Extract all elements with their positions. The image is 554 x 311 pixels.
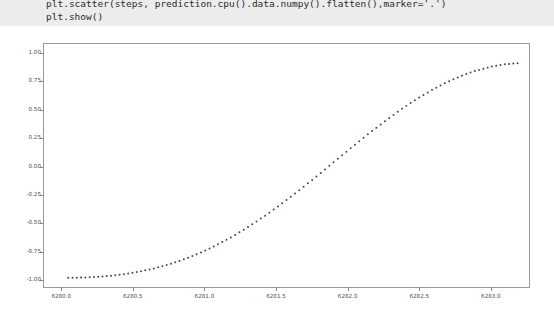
- y-tick-label: 1.00: [29, 48, 41, 57]
- data-point: [474, 70, 476, 72]
- data-point: [461, 75, 463, 77]
- data-point: [127, 273, 129, 275]
- data-point: [97, 276, 99, 278]
- data-point: [114, 274, 116, 276]
- data-point: [315, 175, 317, 177]
- data-point: [144, 269, 146, 271]
- plot-surface: [44, 44, 529, 287]
- data-point: [290, 196, 292, 198]
- data-point: [247, 226, 249, 228]
- data-point: [358, 140, 360, 142]
- data-point: [367, 133, 369, 135]
- data-point: [435, 87, 437, 89]
- data-point: [106, 275, 108, 277]
- data-point: [499, 64, 501, 66]
- data-point: [388, 117, 390, 119]
- x-tick-mark: [61, 287, 62, 291]
- x-tick-mark: [491, 287, 492, 291]
- data-point: [110, 275, 112, 277]
- y-tick-label: -0.25: [27, 190, 41, 199]
- data-point: [72, 277, 74, 279]
- data-point: [405, 105, 407, 107]
- x-tick-label: 6281.5: [266, 292, 286, 301]
- data-point: [286, 199, 288, 201]
- data-point: [495, 65, 497, 67]
- data-point: [238, 231, 240, 233]
- data-point: [414, 99, 416, 101]
- data-point: [418, 97, 420, 99]
- code-cell[interactable]: plt.scatter(steps, prediction.cpu().data…: [0, 0, 554, 26]
- data-point: [354, 144, 356, 146]
- data-point: [341, 154, 343, 156]
- data-point: [213, 246, 215, 248]
- data-point: [136, 271, 138, 273]
- data-point: [320, 172, 322, 174]
- data-point: [131, 272, 133, 274]
- data-point: [324, 168, 326, 170]
- data-point: [221, 241, 223, 243]
- data-point: [256, 221, 258, 223]
- data-point: [512, 62, 514, 64]
- data-point: [380, 123, 382, 125]
- data-point: [251, 223, 253, 225]
- data-point: [149, 268, 151, 270]
- data-point: [397, 111, 399, 113]
- data-point: [363, 137, 365, 139]
- matplotlib-figure-output: 1.000.750.500.250.00-0.25-0.50-0.75-1.00…: [0, 26, 554, 311]
- data-point: [264, 215, 266, 217]
- data-point: [157, 266, 159, 268]
- y-tick-label: -0.75: [27, 247, 41, 256]
- data-point: [303, 186, 305, 188]
- y-tick-label: 0.50: [29, 105, 41, 114]
- data-point: [84, 276, 86, 278]
- plot-axes: 1.000.750.500.250.00-0.25-0.50-0.75-1.00…: [43, 43, 530, 288]
- data-point: [226, 239, 228, 241]
- data-point: [196, 253, 198, 255]
- data-point: [517, 62, 519, 64]
- x-tick-label: 6283.0: [481, 292, 501, 301]
- data-point: [431, 89, 433, 91]
- data-point: [375, 127, 377, 129]
- data-point: [217, 243, 219, 245]
- data-point: [440, 84, 442, 86]
- data-point: [179, 260, 181, 262]
- data-point: [76, 277, 78, 279]
- scatter-series: [44, 44, 529, 287]
- data-point: [268, 212, 270, 214]
- x-tick-label: 6280.0: [51, 292, 71, 301]
- data-point: [200, 251, 202, 253]
- x-tick-mark: [419, 287, 420, 291]
- data-point: [281, 202, 283, 204]
- data-point: [345, 151, 347, 153]
- data-point: [384, 120, 386, 122]
- data-point: [487, 67, 489, 69]
- x-tick-label: 6281.0: [195, 292, 215, 301]
- data-point: [67, 277, 69, 279]
- data-point: [260, 218, 262, 220]
- data-point: [273, 209, 275, 211]
- data-point: [410, 102, 412, 104]
- data-point: [101, 275, 103, 277]
- data-point: [337, 158, 339, 160]
- data-point: [482, 68, 484, 70]
- data-point: [307, 182, 309, 184]
- data-point: [204, 250, 206, 252]
- data-point: [187, 257, 189, 259]
- data-point: [161, 265, 163, 267]
- data-point: [448, 80, 450, 82]
- x-tick-mark: [204, 287, 205, 291]
- data-point: [465, 73, 467, 75]
- data-point: [452, 78, 454, 80]
- data-point: [230, 236, 232, 238]
- data-point: [174, 261, 176, 263]
- y-tick-label: 0.00: [29, 162, 41, 171]
- data-point: [298, 189, 300, 191]
- data-point: [422, 94, 424, 96]
- x-tick-label: 6282.5: [409, 292, 429, 301]
- y-tick-label: 0.25: [29, 133, 41, 142]
- data-point: [371, 130, 373, 132]
- code-line-scatter: plt.scatter(steps, prediction.cpu().data…: [0, 0, 554, 10]
- y-tick-label: 0.75: [29, 76, 41, 85]
- data-point: [350, 147, 352, 149]
- data-point: [140, 270, 142, 272]
